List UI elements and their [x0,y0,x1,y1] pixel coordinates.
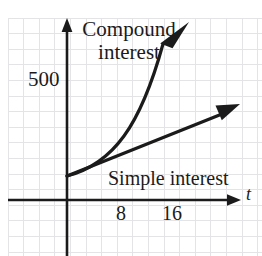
x-axis-tick-label-16: 16 [162,203,182,225]
interest-growth-figure: Compound interest Simple interest 500 8 … [0,0,262,256]
simple-interest-annotation: Simple interest [108,168,229,190]
x-axis-tick-label-8: 8 [116,203,126,225]
y-axis-tick-label-500: 500 [28,68,60,91]
y-axis [62,18,73,256]
compound-interest-annotation: Compound interest [74,18,184,63]
simple-interest-line [67,104,240,176]
compound-annotation-line-1: Compound [82,17,175,41]
compound-annotation-line-2: interest [74,41,184,64]
x-axis-variable-label: t [246,185,251,204]
